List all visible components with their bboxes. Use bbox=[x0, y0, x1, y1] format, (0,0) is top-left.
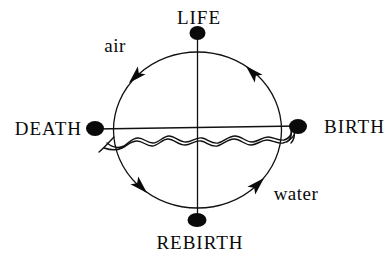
water-region-label: water bbox=[274, 183, 319, 204]
horizontal-axis-line bbox=[95, 126, 298, 129]
birth-label: BIRTH bbox=[324, 116, 385, 137]
cycle-arrow-top-left-icon bbox=[125, 66, 146, 87]
birth-node-dot-icon bbox=[289, 119, 307, 134]
cycle-arrow-bottom-left-icon bbox=[130, 176, 151, 197]
life-label: LIFE bbox=[177, 7, 221, 28]
rebirth-label: REBIRTH bbox=[156, 232, 243, 253]
diagram-canvas: LIFE DEATH BIRTH REBIRTH air water bbox=[0, 0, 391, 257]
death-node-dot-icon bbox=[86, 121, 104, 136]
life-node-dot-icon bbox=[190, 26, 206, 40]
life-cycle-diagram: LIFE DEATH BIRTH REBIRTH air water bbox=[0, 0, 391, 257]
rebirth-node-dot-icon bbox=[188, 213, 207, 227]
death-label: DEATH bbox=[15, 118, 82, 139]
waterline-wave-upper bbox=[107, 131, 292, 147]
air-region-label: air bbox=[104, 35, 126, 56]
